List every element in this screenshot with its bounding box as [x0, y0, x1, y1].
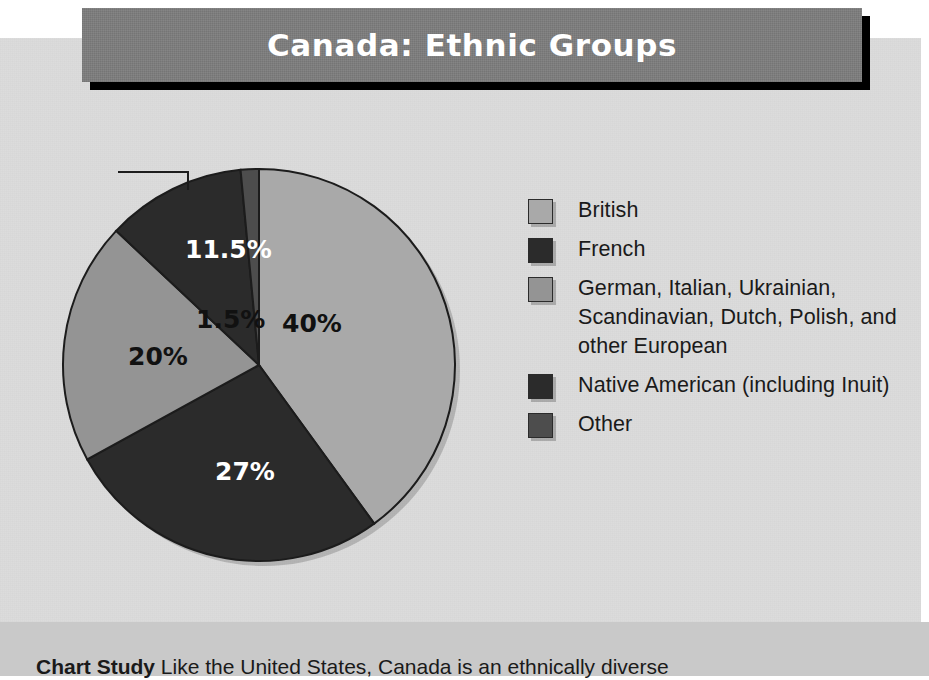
pie-slice-label-3: 20%	[128, 342, 188, 371]
legend-label-1: British	[578, 196, 638, 225]
legend-swatch-icon-3	[528, 277, 553, 302]
legend-item-4[interactable]: Native American (including Inuit)	[528, 371, 898, 400]
legend-label-2: French	[578, 235, 646, 264]
legend-label-5: Other	[578, 410, 632, 439]
title-bar: Canada: Ethnic Groups	[82, 8, 862, 82]
legend: BritishFrenchGerman, Italian, Ukrainian,…	[528, 196, 898, 449]
page-title: Canada: Ethnic Groups	[267, 27, 677, 63]
chart-caption: Chart Study Like the United States, Cana…	[36, 654, 916, 680]
legend-item-1[interactable]: British	[528, 196, 898, 225]
legend-label-3: German, Italian, Ukrainian, Scandinavian…	[578, 274, 898, 361]
legend-item-5[interactable]: Other	[528, 410, 898, 439]
pie-chart-svg: 40%27%20%11.5%	[55, 160, 465, 575]
legend-swatch-icon-4	[528, 374, 553, 399]
pie-slices	[63, 169, 455, 561]
legend-label-4: Native American (including Inuit)	[578, 371, 890, 400]
legend-item-2[interactable]: French	[528, 235, 898, 264]
pie-slice-label-2: 27%	[215, 457, 275, 486]
legend-swatch-icon-1	[528, 199, 553, 224]
caption-lead: Chart Study	[36, 655, 155, 678]
callout-label-1-5: 1.5%	[196, 305, 265, 334]
caption-text: Like the United States, Canada is an eth…	[155, 655, 669, 678]
legend-swatch-icon-2	[528, 238, 553, 263]
pie-slice-label-1: 40%	[282, 309, 342, 338]
pie-chart: 40%27%20%11.5% 1.5%	[55, 160, 465, 575]
pie-slice-label-4: 11.5%	[185, 235, 272, 264]
legend-swatch-icon-5	[528, 413, 553, 438]
legend-item-3[interactable]: German, Italian, Ukrainian, Scandinavian…	[528, 274, 898, 361]
